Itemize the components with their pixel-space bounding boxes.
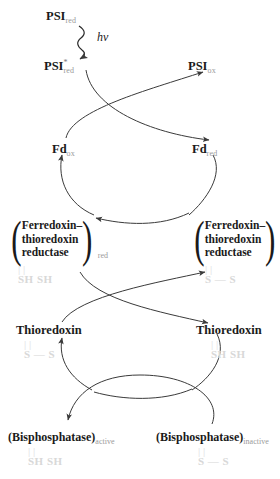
thiol-thioredoxin-reduced: | | SH SH xyxy=(211,341,246,360)
ftr-line2: thioredoxin xyxy=(22,233,79,245)
ftr-reduced-subscript: red xyxy=(98,251,108,263)
paren-close-icon: ) xyxy=(82,216,92,263)
ftr-line3: reductase xyxy=(205,246,252,258)
ftr-reduced-text: Ferredoxin– thioredoxin reductase xyxy=(22,216,82,263)
label-psi-red-top: PSIred xyxy=(46,10,76,23)
thiol-atoms: SH SH xyxy=(28,455,63,467)
disulfide-tick-marks: | | xyxy=(198,448,229,455)
label-psi-excited: PSI*red xyxy=(44,60,74,73)
ftr-line1: Ferredoxin– xyxy=(22,219,82,231)
label-thioredoxin-reduced: Thioredoxin xyxy=(196,324,262,337)
bisphosphatase-active-text: (Bisphosphatase) xyxy=(8,430,95,444)
fd-red-subscript: red xyxy=(207,149,218,158)
thioredoxin-right-text: Thioredoxin xyxy=(196,323,262,337)
bisphosphatase-inactive-text: (Bisphosphatase) xyxy=(156,430,243,444)
thiol-atoms: SH SH xyxy=(211,348,246,360)
thiol-ftr-reduced: | | SH SH xyxy=(18,266,53,285)
arrow-fdred-to-ftrox xyxy=(189,155,216,215)
thiol-tick-marks: | | xyxy=(28,448,63,455)
disulfide-tick-marks: | | xyxy=(205,266,236,273)
disulfide-atoms: S — S xyxy=(205,273,236,285)
ftr-oxidized-text: Ferredoxin– thioredoxin reductase xyxy=(205,216,265,263)
psi-ox-text: PSI xyxy=(188,59,207,73)
label-thioredoxin-oxidized: Thioredoxin xyxy=(16,324,82,337)
arrow-fdox-to-psiox xyxy=(66,72,203,138)
label-fd-red: Fdred xyxy=(192,143,217,156)
bisphosphatase-active-subscript: active xyxy=(95,437,114,446)
thiol-tick-marks: | | xyxy=(18,266,53,273)
disulfide-ftr-oxidized: | | S — S xyxy=(205,266,236,285)
arrow-bisphosphatase-inactive-to-active xyxy=(68,375,214,424)
disulfide-bisphosphatase-inactive: | | S — S xyxy=(198,448,229,467)
psi-excited-text: PSI xyxy=(44,59,63,73)
psi-red-top-text: PSI xyxy=(46,9,65,23)
paren-open-icon: ( xyxy=(11,216,21,263)
label-bisphosphatase-inactive: (Bisphosphatase)inactive xyxy=(156,430,269,445)
label-fd-ox: Fdox xyxy=(52,143,75,156)
disulfide-thioredoxin-oxidized: | | S — S xyxy=(24,341,55,360)
arrow-ftrred-to-trxred xyxy=(80,272,208,323)
photon-text: hv xyxy=(97,30,108,44)
ftr-line3: reductase xyxy=(22,246,69,258)
fd-red-text: Fd xyxy=(192,142,207,156)
ftr-line1: Ferredoxin– xyxy=(205,219,265,231)
disulfide-tick-marks: | | xyxy=(24,341,55,348)
label-ftr-oxidized: ( Ferredoxin– thioredoxin reductase ) ox xyxy=(188,216,280,263)
thiol-tick-marks: | | xyxy=(211,341,246,348)
arrow-ftr-cross-left xyxy=(96,213,189,223)
label-psi-ox: PSIox xyxy=(188,60,216,73)
psi-ox-subscript: ox xyxy=(207,66,215,75)
fd-ox-subscript: ox xyxy=(67,149,75,158)
photon-squiggle-arrow xyxy=(78,26,85,59)
disulfide-atoms: S — S xyxy=(198,455,229,467)
bisphosphatase-inactive-subscript: inactive xyxy=(243,437,268,446)
paren-open-icon: ( xyxy=(194,216,204,263)
arrow-trxox-to-ftrox xyxy=(62,272,205,322)
label-ftr-reduced: ( Ferredoxin– thioredoxin reductase ) re… xyxy=(5,216,108,263)
thiol-bisphosphatase-active: | | SH SH xyxy=(28,448,63,467)
arrow-psi-to-fdred xyxy=(86,70,209,140)
thiol-atoms: SH SH xyxy=(18,273,53,285)
thioredoxin-left-text: Thioredoxin xyxy=(16,323,82,337)
photon-label: hv xyxy=(97,30,108,45)
disulfide-atoms: S — S xyxy=(24,348,55,360)
arrow-to-thioredoxin-ox xyxy=(61,338,92,390)
psi-excited-subscript: red xyxy=(63,66,74,75)
ftr-line2: thioredoxin xyxy=(205,233,262,245)
label-bisphosphatase-active: (Bisphosphatase)active xyxy=(8,430,114,445)
arrow-ftrred-to-fdox xyxy=(61,155,94,215)
ferredoxin-thioredoxin-diagram: PSIred hv PSI*red PSIox Fdox Fdred ( Fer… xyxy=(0,0,280,479)
arrow-trx-cross-left xyxy=(94,389,192,398)
fd-ox-text: Fd xyxy=(52,142,67,156)
paren-close-icon: ) xyxy=(265,216,275,263)
psi-red-top-subscript: red xyxy=(65,16,76,25)
